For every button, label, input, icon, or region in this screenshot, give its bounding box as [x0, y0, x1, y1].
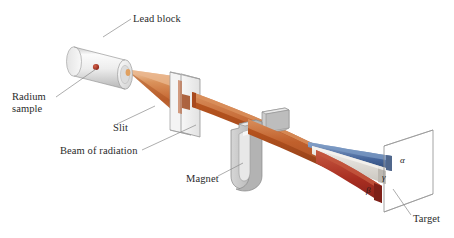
- alpha-ray-label: α: [400, 155, 405, 165]
- label-radium-sample: Radium: [12, 91, 46, 102]
- label-radium-sample-line2: sample: [12, 103, 43, 114]
- label-target: Target: [413, 213, 440, 224]
- label-magnet: Magnet: [186, 173, 219, 184]
- beta-ray-label: β: [365, 185, 371, 195]
- label-slit: Slit: [113, 122, 128, 133]
- radioactivity-diagram: α γ β Lead block Radium sample Slit Beam…: [0, 0, 454, 238]
- label-lead-block: Lead block: [133, 13, 182, 24]
- gamma-ray-label: γ: [382, 172, 386, 182]
- diagram-canvas: α γ β Lead block Radium sample Slit Beam…: [0, 0, 454, 238]
- label-beam-of-radiation: Beam of radiation: [60, 145, 138, 156]
